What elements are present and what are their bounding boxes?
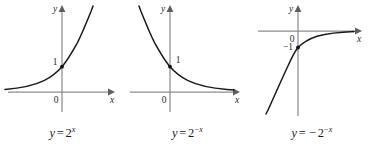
exponential-graphs-figure: y x 0 1 y=2x y bbox=[0, 0, 374, 155]
caption-exponent: x bbox=[72, 125, 76, 134]
plot-svg-2: y x 0 1 bbox=[125, 0, 250, 122]
caption-negative-sign: − bbox=[307, 126, 317, 140]
curve-y-equals-2-to-the-minus-x bbox=[139, 6, 234, 90]
y-axis-arrowhead bbox=[167, 5, 174, 12]
caption-exponent: x bbox=[199, 125, 203, 134]
y-intercept-marker bbox=[296, 46, 300, 50]
origin-label: 0 bbox=[54, 95, 59, 105]
plot-svg-1: y x 0 1 bbox=[0, 0, 125, 122]
y-axis-label: y bbox=[288, 4, 294, 14]
graph-panel-negative-exponential: y x 0 −1 y=−2−x bbox=[250, 0, 374, 155]
y-intercept-label: −1 bbox=[283, 42, 293, 52]
plot-area-3: y x 0 −1 bbox=[250, 0, 374, 122]
caption-equals: = bbox=[178, 126, 188, 140]
y-intercept-marker bbox=[168, 65, 172, 69]
y-axis-label: y bbox=[52, 4, 58, 14]
caption-lhs: y bbox=[172, 126, 178, 140]
caption-equals: = bbox=[297, 126, 307, 140]
y-intercept-marker bbox=[60, 65, 64, 69]
y-intercept-label: 1 bbox=[53, 57, 58, 67]
y-intercept-label: 1 bbox=[176, 55, 181, 65]
curve-y-equals-negative-2-to-the-minus-x bbox=[266, 32, 354, 114]
caption-equals: = bbox=[55, 126, 65, 140]
x-axis-label: x bbox=[109, 95, 115, 105]
graph-panel-exponential-growth: y x 0 1 y=2x bbox=[0, 0, 125, 155]
x-axis-label: x bbox=[356, 34, 362, 44]
graph-panel-exponential-decay: y x 0 1 y=2−x bbox=[125, 0, 250, 155]
plot-area-1: y x 0 1 bbox=[0, 0, 125, 122]
origin-label: 0 bbox=[162, 95, 167, 105]
y-axis-label: y bbox=[160, 4, 166, 14]
panel-caption-1: y=2x bbox=[0, 126, 125, 141]
x-axis-label: x bbox=[234, 95, 240, 105]
curve-y-equals-2-to-the-x bbox=[5, 6, 93, 90]
panel-caption-2: y=2−x bbox=[125, 126, 250, 141]
plot-area-2: y x 0 1 bbox=[125, 0, 250, 122]
y-axis-arrowhead bbox=[295, 5, 302, 12]
caption-exponent: x bbox=[329, 125, 333, 134]
y-axis-arrowhead bbox=[59, 5, 66, 12]
panel-caption-3: y=−2−x bbox=[250, 126, 374, 141]
plot-svg-3: y x 0 −1 bbox=[250, 0, 374, 122]
